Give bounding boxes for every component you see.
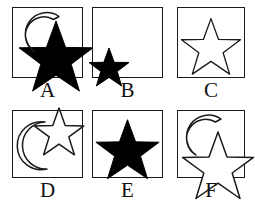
panel-b-art bbox=[92, 7, 163, 78]
panel-a-art bbox=[12, 7, 83, 78]
panel-d-label: D bbox=[12, 180, 83, 201]
panel-e-art bbox=[92, 110, 163, 178]
panel-e-label: E bbox=[92, 180, 163, 201]
panel-c-label: C bbox=[177, 80, 245, 101]
panel-a-label: A bbox=[12, 80, 83, 101]
star-icon-solid bbox=[96, 120, 159, 179]
panel-f-label: F bbox=[177, 180, 245, 201]
panel-f-art bbox=[177, 110, 245, 178]
panel-c-art bbox=[177, 7, 245, 78]
shape-matrix-figure: A B C bbox=[0, 0, 255, 218]
panel-b-label: B bbox=[92, 80, 163, 101]
star-icon-outline bbox=[181, 19, 240, 74]
star-icon-outline bbox=[34, 108, 84, 155]
panel-d-art bbox=[12, 110, 83, 178]
